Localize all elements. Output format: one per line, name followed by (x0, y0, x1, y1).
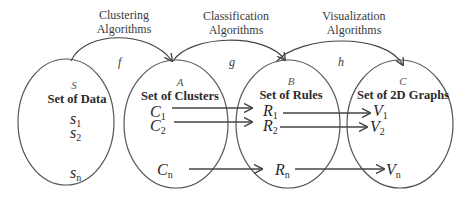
clustering-caption: Clustering Algorithms (97, 8, 152, 36)
classification-caption: Classification Algorithms (203, 9, 269, 37)
classification-label-line2: Algorithms (209, 23, 264, 37)
element-vn: Vn (386, 161, 401, 180)
data-mining-pipeline-diagram: Clustering Algorithms Classification Alg… (0, 0, 475, 198)
set-a: A Set of Clusters C1 C2 Cn (141, 76, 219, 180)
set-s: S Set of Data s1 s2 sn (47, 79, 107, 183)
function-h: h (338, 55, 344, 69)
set-s-title: Set of Data (47, 92, 107, 106)
set-b-letter: B (288, 75, 295, 87)
set-a-letter: A (176, 76, 184, 88)
function-f: f (118, 55, 123, 69)
clustering-label-line2: Algorithms (97, 22, 152, 36)
classification-label-line1: Classification (203, 9, 269, 23)
visualization-label-line1: Visualization (322, 9, 385, 23)
element-rn: Rn (274, 161, 290, 180)
set-s-letter: S (71, 79, 77, 91)
clustering-label-line1: Clustering (99, 8, 149, 22)
set-b-title: Set of Rules (259, 88, 322, 102)
set-c-letter: C (399, 75, 407, 87)
function-g: g (229, 55, 235, 69)
set-c: C Set of 2D Graphs V1 V2 Vn (357, 75, 449, 180)
set-s-ellipse (18, 59, 114, 185)
set-a-title: Set of Clusters (141, 89, 219, 103)
set-c-title: Set of 2D Graphs (357, 88, 449, 102)
element-cn: Cn (157, 161, 173, 180)
visualization-caption: Visualization Algorithms (322, 9, 385, 37)
visualization-label-line2: Algorithms (327, 23, 382, 37)
arc-f (71, 38, 172, 61)
element-sn: sn (70, 164, 81, 183)
